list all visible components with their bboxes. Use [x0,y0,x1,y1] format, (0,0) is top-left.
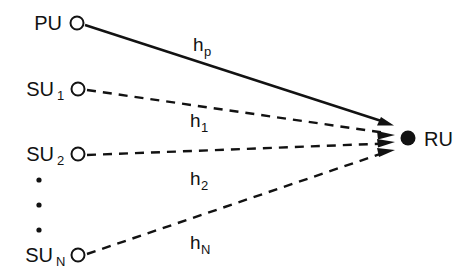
link-h-p [85,25,394,126]
vertical-ellipsis-icon [36,177,41,232]
su-1-open-circle-icon[interactable] [72,83,85,96]
su-n-subscript: N [56,254,65,269]
su-1-subscript: 1 [57,88,64,103]
label-h-2: h 2 [190,168,208,193]
link-h-2-line [87,144,386,156]
label-h-1-base: h [190,110,201,131]
label-h-1: h 1 [190,110,208,135]
label-h-1-subscript: 1 [201,120,208,135]
label-h-n: h N [190,232,210,257]
ellipsis-dot-2 [36,202,41,207]
link-h-p-line [85,25,386,123]
ellipsis-dot-3 [36,227,41,232]
node-pu[interactable]: PU [34,12,83,34]
label-h-p: h p [193,34,211,59]
channel-links-group [85,25,395,254]
link-h-1-line [87,90,386,133]
link-h-1-arrowhead [377,131,395,140]
node-su-1[interactable]: SU 1 [26,78,84,103]
link-h-p-arrowhead [377,117,394,126]
su-2-subscript: 2 [57,153,64,168]
su-1-label: SU [26,78,54,100]
su-n-open-circle-icon[interactable] [72,249,85,262]
su-2-label: SU [26,143,54,165]
link-h-1 [87,90,395,140]
label-h-n-subscript: N [201,242,210,257]
su-2-open-circle-icon[interactable] [72,148,85,161]
link-labels-group: h p h 1 h 2 h N [190,34,211,257]
ru-filled-circle-icon[interactable] [401,131,416,146]
ru-label: RU [424,128,453,150]
label-h-p-base: h [193,34,204,55]
label-h-n-base: h [190,232,201,253]
pu-label: PU [34,12,62,34]
label-h-2-base: h [190,168,201,189]
link-h-2-arrowhead [377,139,395,148]
node-su-2[interactable]: SU 2 [26,143,84,168]
su-n-label: SU [25,244,53,266]
network-diagram-svg: PU SU 1 SU 2 SU N RU [0,0,468,276]
label-h-2-subscript: 2 [201,178,208,193]
link-h-n-arrowhead [377,148,395,157]
node-ru[interactable]: RU [401,128,453,150]
node-su-n[interactable]: SU N [25,244,84,269]
ellipsis-dot-1 [36,177,41,182]
network-diagram-canvas: PU SU 1 SU 2 SU N RU [0,0,468,276]
pu-open-circle-icon[interactable] [71,17,84,30]
link-h-2 [87,139,395,155]
link-h-n [87,148,395,254]
link-h-n-line [87,152,386,254]
label-h-p-subscript: p [204,44,211,59]
nodes-group: PU SU 1 SU 2 SU N RU [25,12,453,269]
